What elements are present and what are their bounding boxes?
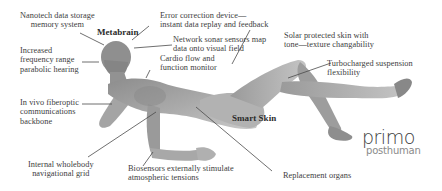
leader-network-sonar [134, 45, 172, 48]
label-nanotech-storage: Nanotech data storage memory system [20, 11, 95, 30]
logo-primary: primo [362, 129, 421, 146]
leader-navigation [88, 112, 156, 157]
label-metabrain: Metabrain [97, 28, 138, 37]
label-suspension: Turbocharged suspension flexibility [327, 59, 413, 78]
label-hearing: Increased frequency range parabolic hear… [20, 46, 79, 74]
posthuman-diagram: Nanotech data storage memory system Meta… [0, 0, 442, 191]
label-network-sonar: Network sonar sensors map data onto visu… [173, 35, 266, 54]
label-solar-skin: Solar protected skin with tone—texture c… [284, 31, 374, 50]
label-cardio-monitor: Cardio flow and function monitor [160, 54, 217, 73]
label-navigation-grid: Internal wholebody navigational grid [28, 160, 94, 179]
label-fiberoptic: In vivo fiberoptic communications backbo… [20, 98, 79, 126]
label-replacement-organs: Replacement organs [283, 171, 351, 180]
label-biosensors: Biosensors externally stimulate atmosphe… [128, 164, 234, 183]
leader-cardio [146, 70, 150, 78]
primo-posthuman-logo: primo posthuman [362, 129, 421, 156]
label-smart-skin: Smart Skin [232, 114, 276, 123]
logo-secondary: posthuman [366, 146, 421, 156]
label-error-correction: Error correction device— instant data re… [160, 11, 269, 30]
